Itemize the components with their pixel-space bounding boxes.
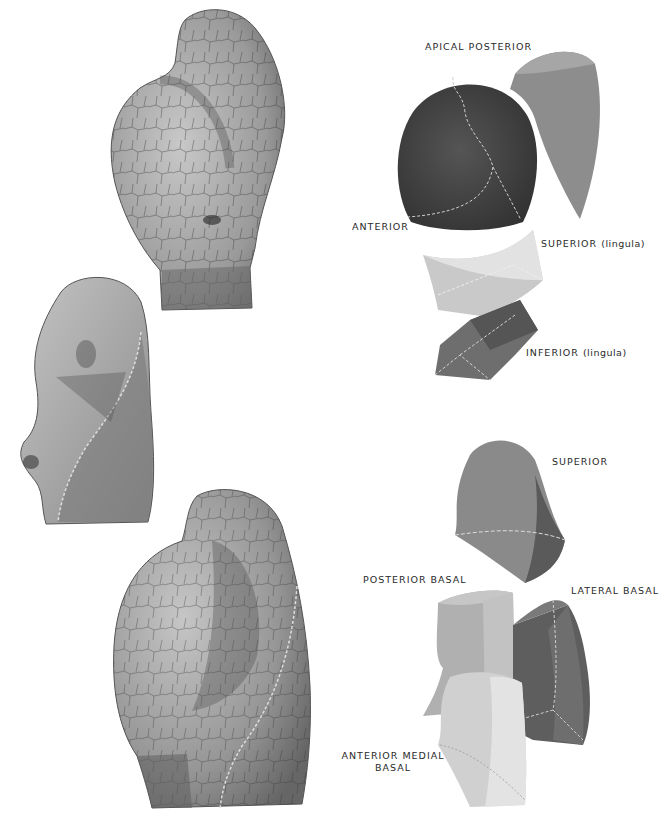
- label-superior-lingula-main: SUPERIOR: [541, 238, 597, 249]
- label-inferior-lingula: INFERIOR (lingula): [526, 347, 627, 359]
- segment-inferior-lingula: [430, 300, 540, 385]
- label-anterior: ANTERIOR: [352, 221, 409, 233]
- segment-apical-posterior: [505, 44, 605, 224]
- label-anterior-medial-basal: ANTERIOR MEDIAL BASAL: [338, 750, 448, 774]
- segment-anterior-medial-basal: [430, 665, 530, 810]
- label-inferior-lingula-main: INFERIOR: [526, 347, 579, 358]
- label-posterior-basal: POSTERIOR BASAL: [363, 574, 467, 586]
- label-superior: SUPERIOR: [552, 456, 608, 468]
- label-apical-posterior: APICAL POSTERIOR: [425, 41, 532, 53]
- label-lateral-basal: LATERAL BASAL: [571, 585, 659, 597]
- segment-superior: [440, 435, 570, 585]
- label-anterior-medial-basal-line1: ANTERIOR MEDIAL: [338, 750, 448, 762]
- lung-posterior-view: [92, 486, 312, 816]
- label-superior-lingula-paren: (lingula): [601, 238, 645, 249]
- label-inferior-lingula-paren: (lingula): [583, 347, 627, 358]
- label-anterior-medial-basal-line2: BASAL: [338, 762, 448, 774]
- anatomy-plate: APICAL POSTERIOR ANTERIOR SUPERIOR (ling…: [0, 0, 668, 828]
- label-superior-lingula: SUPERIOR (lingula): [541, 238, 645, 250]
